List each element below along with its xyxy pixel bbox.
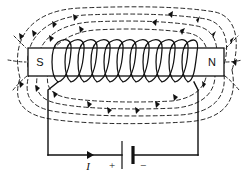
field-arrowhead-icon [73,14,78,21]
field-arrowhead-icon [212,31,216,38]
current-arrowhead-icon [87,151,94,159]
field-arrowhead-icon [53,91,58,98]
field-arrowhead-icon [19,33,24,40]
battery-negative-label: − [140,159,146,171]
field-arrowhead-icon [180,28,185,35]
field-arrowhead-icon [19,81,24,88]
north-pole-label: N [208,56,216,68]
field-arrowhead-icon [107,107,112,114]
south-pole-label: S [36,56,43,68]
circuit-wire-right [194,82,198,155]
field-line-stub-left-2 [8,60,26,62]
current-direction-arrow [87,151,94,159]
external-circuit-group [48,82,198,155]
field-line-stub-right-3 [225,76,239,90]
diagram-svg: S N [0,0,242,174]
battery-positive-label: + [109,159,115,171]
field-arrowhead-icon [152,19,157,26]
field-arrowhead-icon [49,35,54,42]
field-arrowhead-icon [35,85,40,92]
current-label: I [85,160,91,172]
battery-cell [122,141,133,169]
field-arrowhead-icon [202,81,206,88]
field-arrowhead-icon [135,107,140,114]
field-arrowhead-icon [196,16,200,23]
diagram-canvas: S N [0,0,242,174]
field-arrowhead-icon [32,30,37,37]
field-arrowhead-icon [168,11,173,18]
